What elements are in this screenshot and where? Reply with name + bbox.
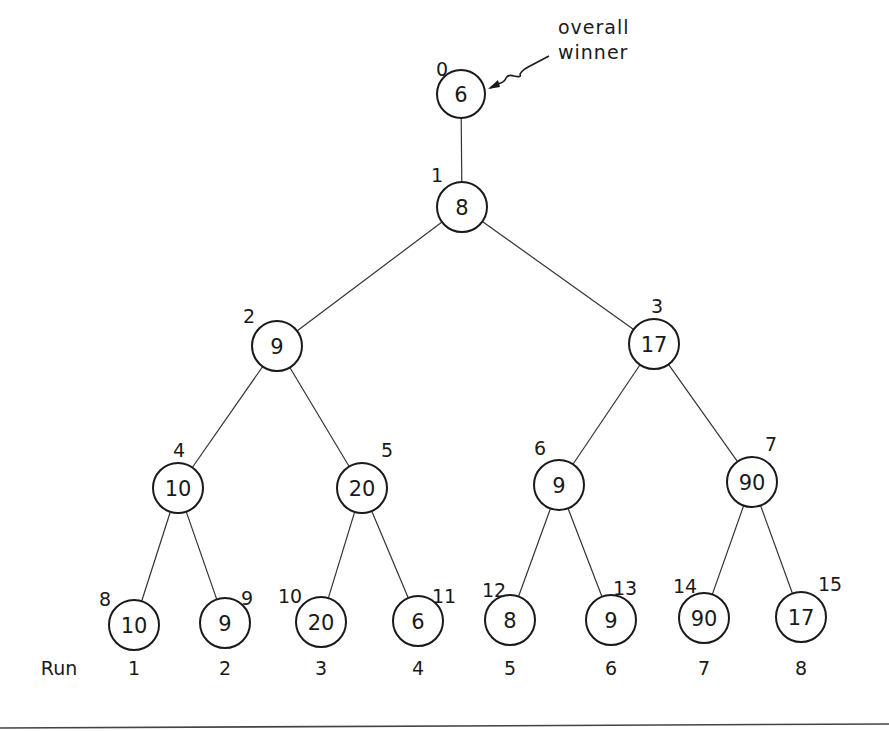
run-number: 5 — [504, 657, 516, 679]
arrowhead-icon — [488, 80, 500, 89]
node-value: 6 — [411, 610, 424, 634]
node-value: 9 — [552, 474, 565, 498]
tree-edge — [712, 506, 743, 595]
node-index-label: 7 — [765, 433, 777, 455]
tree-node: 81 — [431, 164, 487, 232]
run-axis-label: Run — [41, 657, 77, 679]
run-number: 7 — [698, 657, 710, 679]
node-index-label: 10 — [278, 585, 302, 607]
run-number: 8 — [795, 657, 807, 679]
tree-node: 913 — [586, 577, 637, 645]
tree-edge — [328, 512, 354, 598]
tree-edge — [186, 512, 217, 600]
node-index-label: 1 — [431, 164, 443, 186]
tree-edge — [573, 365, 640, 465]
node-index-label: 5 — [381, 439, 393, 461]
node-value: 20 — [349, 477, 376, 501]
node-index-label: 8 — [99, 588, 111, 610]
node-index-label: 3 — [651, 295, 663, 317]
node-index-label: 9 — [241, 587, 253, 609]
run-number: 1 — [128, 657, 140, 679]
tree-edge — [568, 508, 602, 596]
node-value: 9 — [604, 609, 617, 633]
tree-edge — [290, 367, 349, 466]
node-value: 9 — [270, 335, 283, 359]
tree-node: 812 — [482, 579, 535, 645]
node-value: 8 — [503, 609, 516, 633]
tree-node: 99 — [200, 587, 253, 648]
tree-edge — [482, 222, 633, 330]
tree-node: 907 — [727, 433, 777, 507]
tree-edge — [297, 222, 442, 331]
tree-node: 9014 — [673, 575, 729, 643]
overall-winner-annotation: overall winner — [488, 16, 630, 89]
tree-edge — [761, 505, 793, 593]
annotation-line-winner: winner — [558, 41, 628, 63]
tree-node: 173 — [629, 295, 679, 369]
tree-node: 104 — [153, 439, 203, 513]
run-number: 3 — [315, 657, 327, 679]
node-value: 9 — [218, 612, 231, 636]
annotation-line-overall: overall — [558, 16, 630, 38]
node-index-label: 13 — [613, 577, 637, 599]
node-index-label: 15 — [818, 573, 842, 595]
tree-node: 60 — [436, 58, 485, 118]
tree-edge — [192, 367, 262, 468]
run-number: 6 — [605, 657, 617, 679]
node-index-label: 2 — [243, 305, 255, 327]
node-value: 90 — [739, 471, 766, 495]
tree-edge — [668, 364, 737, 461]
tree-edge — [372, 511, 409, 598]
tree-node: 92 — [243, 305, 302, 371]
tree-node: 205 — [337, 439, 393, 513]
tree-edge — [142, 512, 171, 601]
bottom-rule — [0, 724, 889, 728]
run-number: 4 — [412, 657, 424, 679]
run-labels: Run 12345678 — [41, 657, 807, 679]
node-value: 10 — [121, 614, 148, 638]
node-value: 8 — [455, 196, 468, 220]
node-value: 17 — [641, 333, 668, 357]
node-value: 17 — [788, 606, 815, 630]
node-value: 6 — [454, 83, 467, 107]
tree-edge — [519, 508, 551, 596]
tree-edge — [461, 118, 462, 182]
node-index-label: 0 — [436, 58, 448, 80]
node-index-label: 11 — [432, 585, 456, 607]
tree-node: 1715 — [776, 573, 842, 642]
node-index-label: 14 — [673, 575, 697, 597]
tree-node: 2010 — [278, 585, 346, 647]
node-value: 20 — [308, 611, 335, 635]
node-value: 90 — [691, 607, 718, 631]
tree-node: 108 — [99, 588, 159, 650]
tree-node: 611 — [393, 585, 456, 646]
tournament-tree-diagram: 6081921731042059690710899201061181291390… — [0, 0, 889, 731]
node-value: 10 — [165, 477, 192, 501]
node-index-label: 12 — [482, 579, 506, 601]
run-number: 2 — [219, 657, 231, 679]
tree-nodes: 6081921731042059690710899201061181291390… — [99, 58, 842, 650]
tree-node: 96 — [534, 437, 584, 510]
node-index-label: 6 — [534, 437, 546, 459]
node-index-label: 4 — [173, 439, 185, 461]
